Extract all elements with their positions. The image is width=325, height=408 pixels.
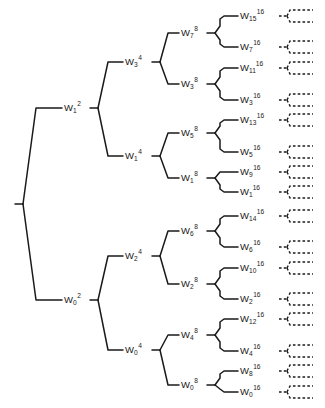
continuation-branch-upper (287, 186, 313, 192)
continuation-branch-upper (287, 62, 313, 68)
node-label-w7-8: W78 (181, 28, 197, 38)
continuation-fork (279, 210, 313, 222)
continuation-branch-lower (287, 192, 313, 198)
continuation-fork (279, 293, 313, 305)
edge-w1-4-to-w1-8 (160, 156, 179, 178)
node-label-w3-16: W316 (240, 95, 260, 105)
node-label-w15-16: W1516 (240, 11, 264, 21)
edge-root-to-w1-2 (23, 108, 62, 204)
continuation-fork (279, 313, 313, 325)
continuation-fork (279, 365, 313, 377)
binary-tree-diagram: W12W02W34W14W24W04W78W38W58W18W68W28W48W… (0, 0, 325, 408)
continuation-fork (279, 94, 313, 106)
edge-w0-4-to-w0-8 (160, 350, 179, 385)
continuation-fork (279, 186, 313, 198)
node-label-w1-8: W18 (181, 173, 197, 183)
continuation-branch-upper (287, 262, 313, 268)
continuation-fork (279, 166, 313, 178)
node-label-w14-16: W1416 (240, 211, 264, 221)
continuation-fork (279, 146, 313, 158)
continuation-branch-upper (287, 241, 313, 247)
continuation-branch-lower (287, 16, 313, 22)
edge-w7-8-to-w7-16 (215, 33, 238, 47)
continuation-fork (279, 386, 313, 398)
continuation-fork (279, 10, 313, 22)
edge-w3-8-to-w3-16 (215, 84, 238, 100)
node-label-w2-4: W24 (125, 251, 141, 261)
edge-w5-8-to-w13-16 (215, 120, 238, 133)
edge-w6-8-to-w6-16 (215, 231, 238, 247)
edge-w2-8-to-w10-16 (215, 268, 238, 284)
continuation-fork (279, 241, 313, 253)
node-label-w10-16: W1016 (240, 263, 264, 273)
edge-w3-4-to-w3-8 (160, 62, 179, 84)
continuation-branch-lower (287, 371, 313, 377)
edge-w1-8-to-w9-16 (215, 172, 238, 178)
edge-w4-8-to-w4-16 (215, 335, 238, 351)
continuation-branch-lower (287, 268, 313, 274)
continuation-branch-upper (287, 114, 313, 120)
node-label-w0-8: W08 (181, 380, 197, 390)
edge-root-to-w0-2 (23, 204, 62, 300)
edge-w4-8-to-w12-16 (215, 319, 238, 335)
continuation-fork (279, 262, 313, 274)
node-label-w1-16: W116 (240, 187, 260, 197)
edge-w0-8-to-w0-16 (215, 385, 238, 392)
node-label-w0-4: W04 (125, 345, 141, 355)
continuation-branch-lower (287, 68, 313, 74)
node-label-w8-16: W816 (240, 366, 260, 376)
continuation-branch-upper (287, 293, 313, 299)
continuation-branch-lower (287, 100, 313, 106)
edge-w2-8-to-w2-16 (215, 284, 238, 299)
node-label-w2-16: W216 (240, 294, 260, 304)
node-label-w1-2: W12 (64, 103, 80, 113)
continuation-branch-upper (287, 210, 313, 216)
continuation-branch-lower (287, 392, 313, 398)
edge-w2-4-to-w2-8 (160, 256, 179, 284)
node-label-w5-16: W516 (240, 147, 260, 157)
continuation-branch-lower (287, 120, 313, 126)
continuation-branch-upper (287, 41, 313, 47)
edge-w3-8-to-w11-16 (215, 68, 238, 84)
continuation-branch-upper (287, 365, 313, 371)
edge-w2-4-to-w6-8 (160, 231, 179, 256)
continuation-branch-lower (287, 216, 313, 222)
tree-edges-svg (0, 0, 325, 408)
continuation-branch-upper (287, 386, 313, 392)
edge-w1-8-to-w1-16 (215, 178, 238, 192)
node-label-w4-8: W48 (181, 330, 197, 340)
edge-w6-8-to-w14-16 (215, 216, 238, 231)
continuation-fork (279, 345, 313, 357)
continuation-branch-upper (287, 166, 313, 172)
edge-group-level2 (90, 62, 123, 350)
node-label-w0-16: W016 (240, 387, 260, 397)
node-label-w4-16: W416 (240, 346, 260, 356)
continuation-branch-lower (287, 47, 313, 53)
edge-group-root (15, 108, 62, 300)
edge-w3-4-to-w7-8 (160, 33, 179, 62)
node-label-w11-16: W1116 (240, 63, 263, 73)
continuation-branch-lower (287, 152, 313, 158)
node-label-w2-8: W28 (181, 279, 197, 289)
edge-w5-8-to-w5-16 (215, 133, 238, 152)
continuation-branch-lower (287, 172, 313, 178)
node-label-w9-16: W916 (240, 167, 260, 177)
edge-w1-2-to-w3-4 (98, 62, 123, 108)
node-label-w3-4: W34 (125, 57, 141, 67)
continuation-fork (279, 114, 313, 126)
continuation-group (279, 10, 313, 398)
continuation-fork (279, 62, 313, 74)
edge-w0-2-to-w2-4 (98, 256, 123, 300)
continuation-fork (279, 41, 313, 53)
continuation-branch-lower (287, 299, 313, 305)
edge-w0-8-to-w8-16 (215, 371, 238, 385)
edge-w0-4-to-w4-8 (160, 335, 179, 350)
continuation-branch-upper (287, 94, 313, 100)
continuation-branch-upper (287, 146, 313, 152)
continuation-branch-upper (287, 313, 313, 319)
continuation-branch-upper (287, 345, 313, 351)
continuation-branch-lower (287, 351, 313, 357)
edge-w1-4-to-w5-8 (160, 133, 179, 156)
node-label-w1-4: W14 (125, 151, 141, 161)
node-label-w13-16: W1316 (240, 115, 264, 125)
